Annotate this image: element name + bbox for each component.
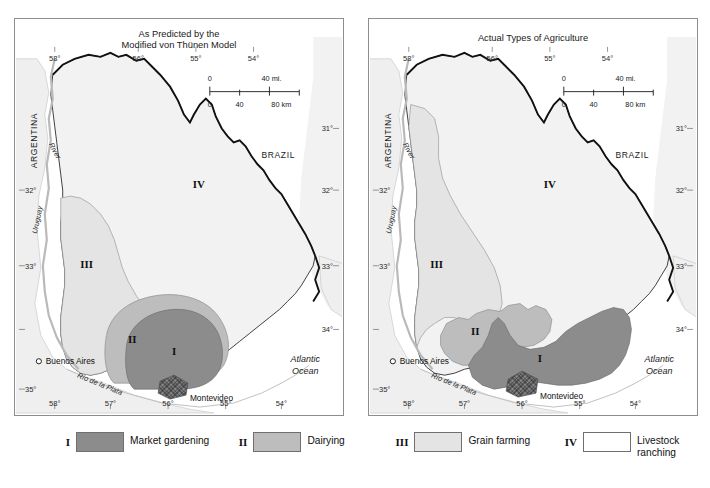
grat-top-2: 55° [544, 54, 555, 63]
grat-right-0: 31° [676, 124, 687, 133]
grat-right-2: 33° [676, 262, 687, 271]
grat-right-1: 32° [322, 186, 333, 195]
zone-label-4: IV [544, 178, 556, 190]
label-atlantic-line1: Atlantic [290, 354, 321, 364]
label-atlantic-line2: Ocean [646, 366, 672, 376]
label-atlantic-line1: Atlantic [644, 354, 675, 364]
legend-item-dairying: II Dairying [233, 432, 366, 452]
legend-item-livestock-ranching: IV Livestock ranching [563, 432, 696, 458]
grat-right-3: 34° [676, 325, 687, 334]
legend-swatch-market-gardening [76, 432, 124, 452]
label-montevideo: Montevideo [540, 391, 583, 401]
label-buenos-aires: Buenos Aires [400, 356, 449, 366]
grat-right-0: 31° [322, 124, 333, 133]
scale-km-zero: 0 [208, 100, 212, 109]
zone-label-1: I [538, 352, 542, 364]
label-atlantic-line2: Ocean [292, 366, 318, 376]
scale-km-mid: 40 [236, 100, 244, 109]
scale-miles-max: 40 mi. [615, 74, 635, 83]
legend-roman-4: IV [563, 432, 577, 452]
grat-left-0: 32° [379, 186, 390, 195]
scale-km-max: 80 km [625, 100, 645, 109]
zone-label-2: II [471, 325, 480, 337]
grat-bot-0: 58° [403, 399, 414, 408]
legend-label-dairying: Dairying [307, 432, 344, 447]
panel-title-line1: As Predicted by the [139, 29, 220, 39]
zone-label-2: II [128, 333, 137, 345]
legend-roman-3: III [394, 432, 408, 452]
grat-bot-1: 57° [105, 399, 116, 408]
scale-km-zero: 0 [562, 100, 566, 109]
grat-right-1: 32° [676, 186, 687, 195]
grat-top-3: 54° [248, 54, 259, 63]
map-svg-actual: Actual Types of Agriculture 58° 56° 55° … [369, 19, 697, 415]
legend-item-grain-farming: III Grain farming [394, 432, 563, 452]
scale-km-mid: 40 [590, 100, 598, 109]
grat-bot-4: 54° [276, 399, 287, 408]
buenos-aires-marker [390, 359, 395, 364]
scale-miles-zero: 0 [208, 74, 212, 83]
legend-swatch-dairying [253, 432, 301, 452]
label-argentina: ARGENTINA [29, 113, 39, 168]
grat-left-0: 32° [25, 186, 36, 195]
grat-top-0: 58° [49, 54, 60, 63]
grat-top-3: 54° [602, 54, 613, 63]
grat-top-1: 56° [133, 54, 144, 63]
grat-bot-0: 58° [49, 399, 60, 408]
figure-sheet: As Predicted by the Modified von Thünen … [0, 0, 710, 488]
scale-km-max: 80 km [271, 100, 291, 109]
grat-top-2: 55° [190, 54, 201, 63]
zone-label-3: III [430, 258, 443, 270]
legend-label-grain-farming: Grain farming [468, 432, 530, 447]
label-brazil: BRAZIL [261, 150, 294, 160]
grat-left-1: 33° [379, 262, 390, 271]
grat-left-2: 35° [25, 385, 36, 394]
scale-miles-max: 40 mi. [261, 74, 281, 83]
label-argentina: ARGENTINA [383, 113, 393, 168]
grat-right-3: 34° [322, 325, 333, 334]
panel-title-line2: Modified von Thünen Model [122, 40, 237, 50]
legend-swatch-livestock-ranching [583, 432, 631, 452]
label-brazil: BRAZIL [615, 150, 648, 160]
legend-swatch-grain-farming [414, 432, 462, 452]
grat-top-0: 58° [403, 54, 414, 63]
scale-miles-zero: 0 [562, 74, 566, 83]
map-legend: I Market gardening II Dairying III Grain… [14, 432, 696, 476]
buenos-aires-marker [36, 359, 41, 364]
grat-bot-4: 54° [630, 399, 641, 408]
grat-left-2: 35° [379, 385, 390, 394]
legend-label-market-gardening: Market gardening [130, 432, 209, 447]
grat-bot-2: 56° [162, 399, 173, 408]
grat-bot-2: 56° [516, 399, 527, 408]
legend-label-livestock-ranching: Livestock ranching [637, 432, 679, 458]
label-buenos-aires: Buenos Aires [46, 356, 95, 366]
map-panel-predicted: As Predicted by the Modified von Thünen … [14, 18, 344, 416]
map-svg-predicted: As Predicted by the Modified von Thünen … [15, 19, 343, 415]
grat-right-2: 33° [322, 262, 333, 271]
label-montevideo: Montevideo [190, 393, 233, 403]
legend-roman-1: I [56, 432, 70, 452]
grat-left-1: 33° [25, 262, 36, 271]
zone-label-1: I [172, 345, 176, 357]
panel-title-line1: Actual Types of Agriculture [478, 33, 588, 43]
grat-bot-1: 57° [459, 399, 470, 408]
grat-top-1: 56° [487, 54, 498, 63]
zone-label-3: III [80, 258, 93, 270]
legend-roman-2: II [233, 432, 247, 452]
map-panel-actual: Actual Types of Agriculture 58° 56° 55° … [368, 18, 698, 416]
zone-label-4: IV [193, 178, 205, 190]
legend-item-market-gardening: I Market gardening [56, 432, 233, 452]
